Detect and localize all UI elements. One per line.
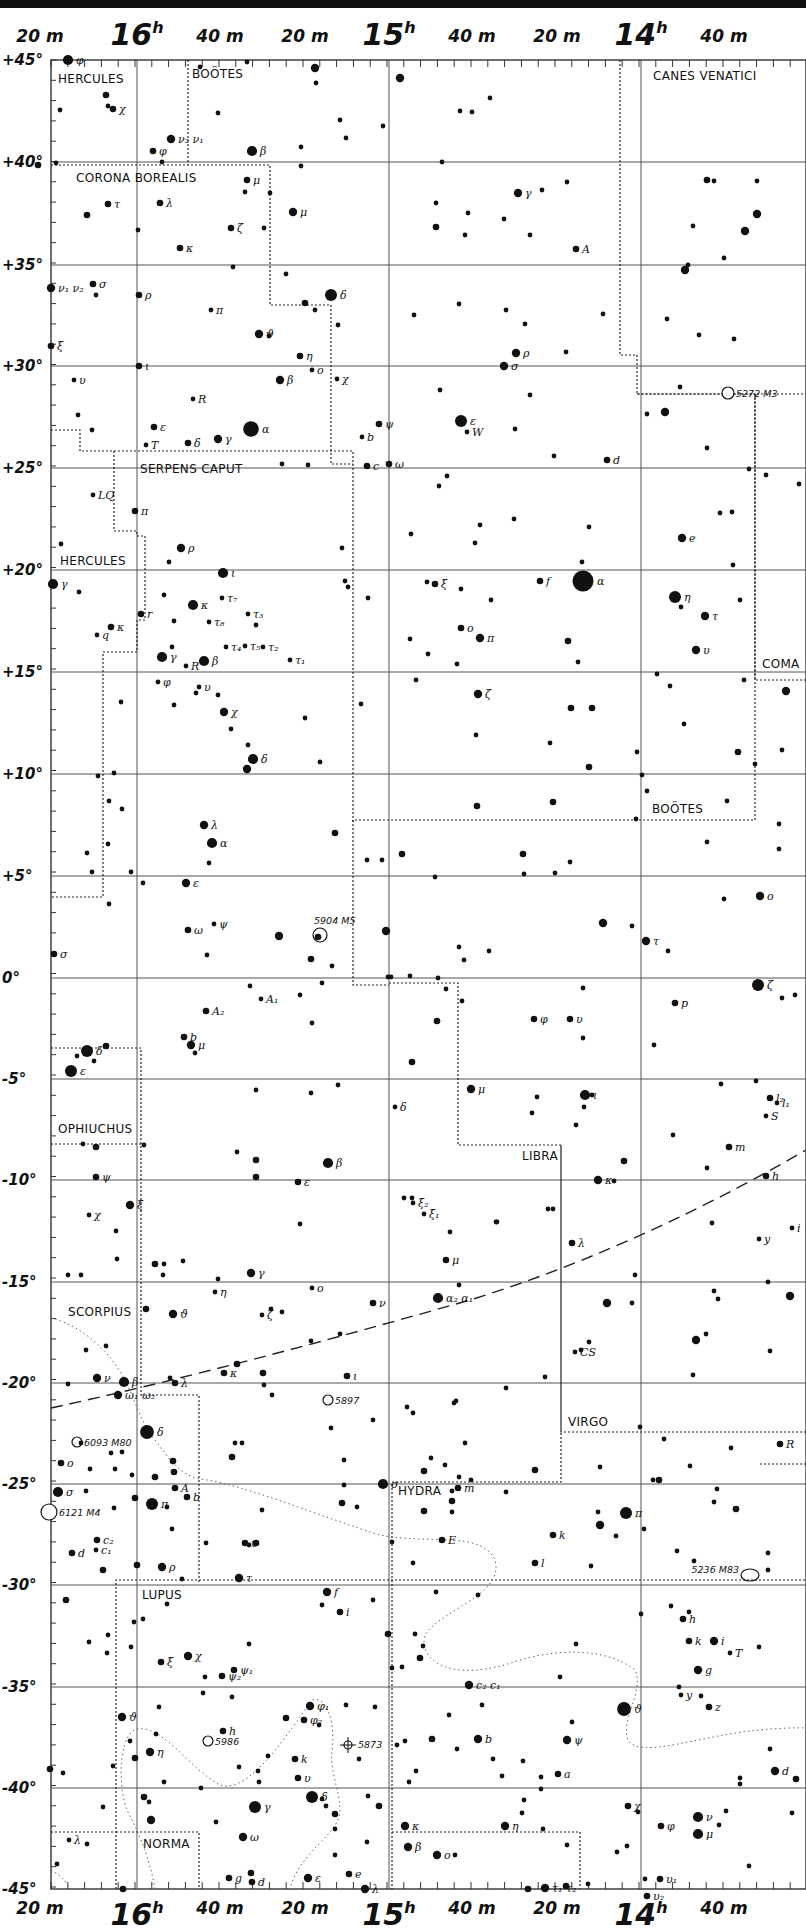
star (115, 1257, 120, 1262)
constellation-label: OPHIUCHUS (58, 1122, 133, 1136)
star (161, 1273, 166, 1278)
star: κ (108, 621, 125, 634)
star-label: δ (157, 1426, 164, 1439)
star (679, 605, 684, 610)
star-label: y (763, 1233, 771, 1246)
star-label: φ (159, 145, 167, 158)
star: ξ (48, 340, 64, 353)
star-label: A₁ (265, 993, 278, 1006)
right-ascension-gridlines (137, 60, 641, 1889)
star: ψ (376, 418, 394, 431)
star (55, 1862, 60, 1867)
star (768, 1747, 773, 1752)
star: c (364, 460, 379, 473)
star (380, 858, 385, 863)
star-label: λ (180, 1377, 188, 1390)
constellation-label: SCORPIUS (68, 1305, 131, 1319)
star-label: κ (411, 1820, 420, 1833)
star: κ (177, 242, 194, 255)
star (317, 1723, 322, 1728)
star-label: φ (163, 676, 171, 689)
star-label: φ₁ (317, 1700, 329, 1713)
star (754, 1079, 759, 1084)
star (233, 1441, 238, 1446)
star (705, 446, 710, 451)
star: ν₂ ν₁ (167, 133, 204, 146)
star (731, 563, 736, 568)
star: φ₁ (306, 1700, 329, 1713)
star (216, 111, 221, 116)
star: ο (756, 890, 774, 903)
star (543, 1375, 548, 1380)
star (457, 945, 462, 950)
star: β (199, 655, 218, 668)
star (262, 226, 267, 231)
star: κ (188, 599, 209, 612)
star (79, 1441, 84, 1446)
star: ω (386, 458, 404, 471)
star (459, 587, 464, 592)
star (396, 74, 404, 82)
declination-labels: +45°+40°+35°+30°+25°+20°+15°+10°+5°0°-5°… (2, 51, 43, 1898)
star (681, 266, 689, 274)
star-label: m (735, 1141, 745, 1154)
star (645, 412, 650, 417)
star (691, 1373, 696, 1378)
star (357, 1757, 362, 1762)
star (266, 1754, 271, 1759)
star (662, 1437, 667, 1442)
star (336, 323, 341, 328)
star (473, 541, 478, 546)
star (692, 1559, 697, 1564)
ra-label: 20 m (281, 1898, 328, 1918)
star (530, 1111, 535, 1116)
star (596, 1510, 601, 1515)
star (535, 1095, 540, 1100)
star (417, 1655, 424, 1662)
star-label: ω (250, 1831, 259, 1844)
star: τ₃ (246, 608, 264, 621)
constellation-label: LUPUS (142, 1588, 182, 1602)
declination-gridlines (51, 162, 806, 1788)
star (371, 1598, 376, 1603)
star (275, 932, 283, 940)
star (429, 1736, 436, 1743)
star: υ (692, 644, 710, 657)
star-label: β (335, 1157, 342, 1170)
star-label: ο (317, 364, 324, 377)
constellation-label: BOÖTES (652, 800, 703, 816)
star-label: ο (767, 890, 774, 903)
star: ξ (432, 578, 448, 591)
star-label: ω (194, 924, 203, 937)
star-label: μ (706, 1828, 713, 1841)
star (201, 1691, 206, 1696)
star: κ (221, 1367, 238, 1380)
star: ε (295, 1176, 310, 1189)
star (668, 684, 673, 689)
star: ω (185, 924, 203, 937)
star (75, 1054, 80, 1059)
star: χ (184, 1650, 203, 1663)
star (448, 1230, 453, 1235)
star-label: β (286, 374, 293, 387)
svg-text:5272 M3: 5272 M3 (736, 388, 777, 399)
dec-label: +20° (2, 561, 43, 579)
star-label: λ (165, 197, 173, 210)
star (546, 1207, 551, 1212)
star (589, 1564, 594, 1569)
star-label: κ (604, 1174, 613, 1187)
star-label: a (564, 1768, 571, 1781)
star: p (672, 997, 688, 1010)
star (474, 733, 479, 738)
star: ξ (158, 1656, 174, 1669)
star-label: z (714, 1701, 721, 1714)
star (691, 224, 696, 229)
star (298, 1222, 303, 1227)
constellation-label: SERPENS CAPUT (140, 462, 243, 476)
star: δ (248, 753, 268, 766)
star: τ₄ (224, 641, 242, 654)
star (669, 1604, 674, 1609)
svg-text:6093 M80: 6093 M80 (84, 1437, 131, 1448)
star (198, 65, 203, 70)
star: l (532, 1557, 545, 1570)
